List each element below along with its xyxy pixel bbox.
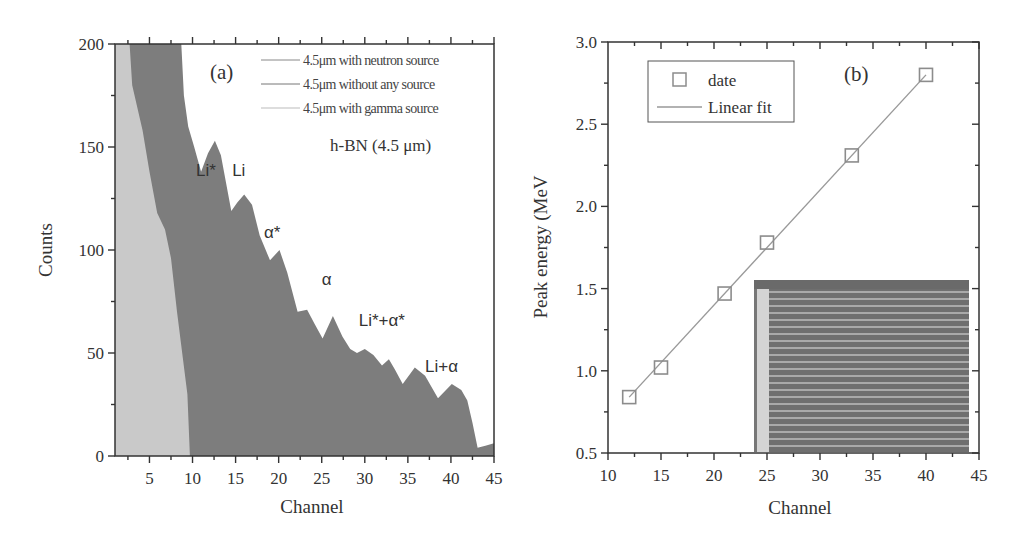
- y-axis-title-a: Counts: [35, 223, 56, 277]
- legend-item-date: date: [708, 71, 736, 90]
- legend-a: 4.5μm with neutron source 4.5μm without …: [261, 53, 439, 116]
- x-tick-label: 45: [486, 469, 503, 488]
- x-tick-label: 40: [918, 466, 935, 485]
- x-tick-label: 45: [971, 466, 988, 485]
- x-tick-label: 15: [653, 466, 670, 485]
- x-tick-label: 10: [184, 469, 201, 488]
- peak-label: α: [322, 270, 332, 289]
- legend-item-gamma: 4.5μm with gamma source: [303, 101, 439, 116]
- panel-label-a: (a): [210, 60, 233, 84]
- y-tick-label: 2.5: [576, 115, 597, 134]
- legend-item-no-source: 4.5μm without any source: [303, 77, 435, 92]
- y-tick-label: 1.5: [576, 280, 597, 299]
- y-tick-label: 2.0: [576, 197, 597, 216]
- x-tick-label: 20: [270, 469, 287, 488]
- x-tick-label: 35: [399, 469, 416, 488]
- peak-label: Li*: [196, 161, 216, 180]
- panel-a-spectrum: 51015202530354045050100150200 Channel Co…: [35, 35, 503, 517]
- x-tick-label: 25: [313, 469, 330, 488]
- x-axis-title-b: Channel: [768, 497, 831, 518]
- x-tick-label: 35: [865, 466, 882, 485]
- y-tick-label: 50: [87, 344, 104, 363]
- y-tick-label: 200: [79, 35, 105, 54]
- peak-label: Li: [232, 161, 245, 180]
- panel-label-b: (b): [844, 62, 869, 86]
- x-tick-label: 25: [759, 466, 776, 485]
- panel-b-calibration: 10152025303540450.51.01.52.02.53.0 Chann…: [530, 33, 988, 518]
- y-tick-label: 3.0: [576, 33, 597, 52]
- x-tick-label: 30: [812, 466, 829, 485]
- x-tick-label: 15: [227, 469, 244, 488]
- x-tick-label: 20: [706, 466, 723, 485]
- y-tick-label: 0.5: [576, 444, 597, 463]
- y-tick-label: 1.0: [576, 362, 597, 381]
- peak-label: α*: [264, 223, 281, 242]
- x-axis-title-a: Channel: [280, 496, 343, 517]
- legend-item-neutron: 4.5μm with neutron source: [303, 53, 439, 68]
- y-tick-label: 100: [79, 241, 105, 260]
- x-tick-label: 5: [145, 469, 154, 488]
- legend-b: date Linear fit: [648, 61, 794, 122]
- x-tick-label: 30: [356, 469, 373, 488]
- y-tick-label: 150: [79, 138, 105, 157]
- x-tick-label: 40: [442, 469, 459, 488]
- inset-micrograph: [754, 280, 969, 452]
- legend-item-linear-fit: Linear fit: [708, 98, 772, 117]
- sample-annotation: h-BN (4.5 μm): [330, 136, 431, 155]
- y-tick-label: 0: [96, 447, 105, 466]
- peak-label: Li*+α*: [359, 311, 406, 330]
- figure: 51015202530354045050100150200 Channel Co…: [0, 0, 1025, 539]
- y-axis-title-b: Peak energy (MeV: [530, 175, 552, 318]
- x-tick-label: 10: [600, 466, 617, 485]
- peak-label: Li+α: [425, 357, 458, 376]
